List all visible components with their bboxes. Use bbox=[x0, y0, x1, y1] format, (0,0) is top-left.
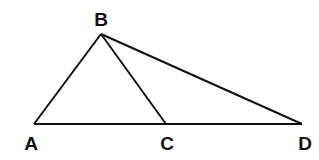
label-A: A bbox=[24, 133, 38, 154]
label-C: C bbox=[160, 133, 174, 154]
segment-AB bbox=[34, 34, 101, 124]
diagram-canvas: ABCD bbox=[0, 0, 319, 160]
label-D: D bbox=[298, 133, 312, 154]
segments bbox=[34, 34, 302, 124]
geometry-diagram: ABCD bbox=[0, 0, 319, 160]
segment-BD bbox=[101, 34, 302, 124]
label-B: B bbox=[94, 9, 108, 30]
point-labels: ABCD bbox=[24, 9, 312, 154]
